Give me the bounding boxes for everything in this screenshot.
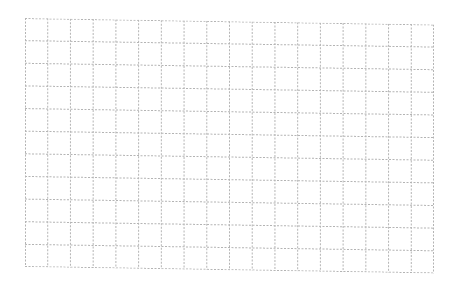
dashed-grid — [25, 18, 434, 273]
grid-lines — [25, 18, 434, 273]
grid-line — [25, 19, 434, 25]
grid-line — [25, 176, 434, 182]
grid-line — [25, 131, 434, 137]
